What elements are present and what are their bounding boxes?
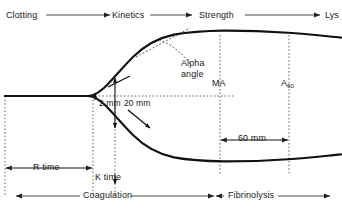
phase-label-strength: Strength xyxy=(199,10,234,21)
alpha-angle-label-line1: Alpha xyxy=(181,58,205,68)
span-60mm-label: 60 mm xyxy=(238,133,266,144)
teg-tracing-svg xyxy=(0,0,342,212)
phase-label-clotting: Clotting xyxy=(6,10,37,21)
phase-label-kinetics: Kinetics xyxy=(112,10,144,21)
ma-label: MA xyxy=(212,78,226,89)
leader-to-lower xyxy=(128,110,150,128)
r-time-label: R time xyxy=(33,162,60,173)
k-time-label: K time xyxy=(95,172,121,183)
teg-diagram: Clotting Kinetics Strength Lys 2 mm 20 m… xyxy=(0,0,342,212)
a60-label-subscript: 60 xyxy=(287,83,294,89)
alpha-angle-label: Alpha angle xyxy=(181,58,213,79)
alpha-angle-label-line2: angle xyxy=(181,69,204,79)
phase-label-coagulation: Coagulation xyxy=(83,190,132,201)
amplitude-label-2mm: 2 mm xyxy=(99,98,121,109)
amplitude-label-20mm: 20 mm xyxy=(124,98,150,109)
a60-label: A60 xyxy=(281,78,294,92)
phase-label-lysis: Lys xyxy=(325,10,339,21)
phase-label-fibrinolysis: Fibrinolysis xyxy=(228,190,274,201)
teg-lower-trace xyxy=(5,96,341,161)
